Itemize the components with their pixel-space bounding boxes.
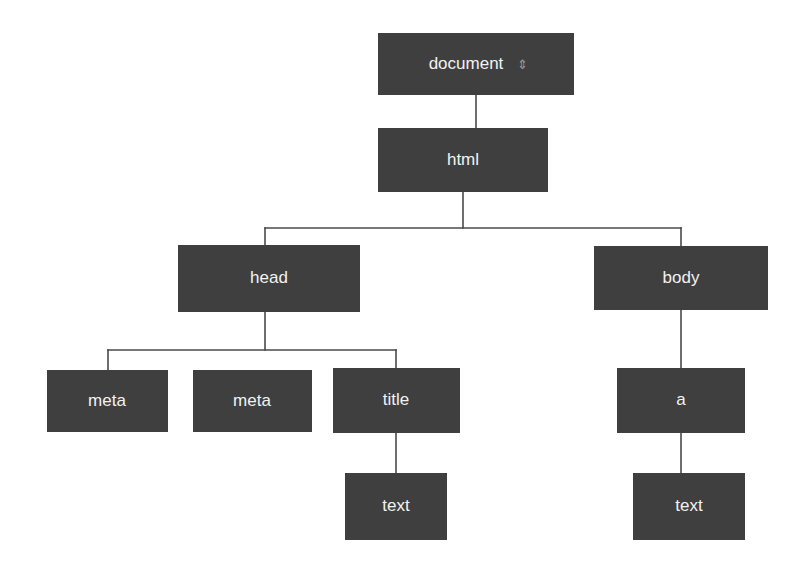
node-head-label: head [250,268,288,287]
node-html-label: html [447,150,479,169]
node-text-1-label: text [382,496,410,515]
node-body[interactable]: body [594,246,768,310]
node-document-label: document [429,54,504,73]
node-a-label: a [676,390,686,409]
node-text-2-label: text [675,496,703,515]
node-html[interactable]: html [378,128,548,192]
node-meta-2-label: meta [233,391,271,410]
node-title-label: title [383,390,409,409]
tree-canvas: document ⇕ html head body meta meta [0,0,805,574]
node-a[interactable]: a [617,368,745,433]
node-document[interactable]: document ⇕ [378,33,574,95]
node-title[interactable]: title [333,368,460,433]
node-head[interactable]: head [178,245,360,312]
node-body-label: body [663,268,700,287]
dom-tree-diagram: document ⇕ html head body meta meta [0,0,805,574]
node-meta-1[interactable]: meta [47,370,168,432]
node-text-2[interactable]: text [633,473,745,540]
document-scroll-marker-icon: ⇕ [517,57,528,72]
node-text-1[interactable]: text [345,473,447,540]
node-meta-2[interactable]: meta [193,370,312,432]
node-meta-1-label: meta [88,391,126,410]
